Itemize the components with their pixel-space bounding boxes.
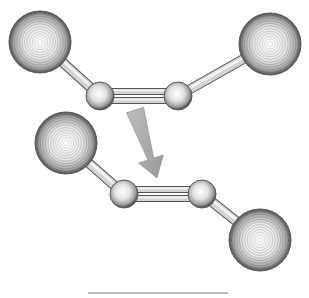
small-atom-sphere (86, 82, 114, 110)
small-atom-sphere (164, 82, 192, 110)
large-atom-sphere (35, 112, 97, 174)
atoms-layer (9, 11, 301, 271)
large-atom-sphere (9, 11, 71, 73)
arrow-down-icon (126, 107, 163, 178)
small-atom-sphere (188, 180, 216, 208)
molecule-diagram (0, 0, 309, 298)
figure-canvas (0, 0, 309, 298)
large-atom-sphere (239, 13, 301, 75)
small-atom-sphere (110, 180, 138, 208)
reaction-arrow (126, 107, 163, 178)
large-atom-sphere (229, 209, 291, 271)
